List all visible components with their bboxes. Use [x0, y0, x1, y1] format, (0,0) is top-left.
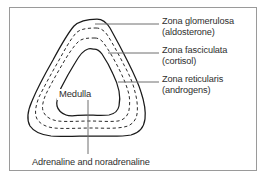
label-zona-glomerulosa-hormone: (aldosterone): [162, 27, 234, 38]
contour-zona-glomerulosa: [28, 19, 145, 136]
label-zona-glomerulosa-name: Zona glomerulosa: [162, 16, 234, 26]
label-caption-adrenaline: Adrenaline and noradrenaline: [32, 157, 150, 168]
label-zona-fasciculata-hormone: (cortisol): [162, 56, 227, 67]
label-medulla: Medulla: [57, 89, 93, 100]
adrenal-gland-diagram: Zona glomerulosa (aldosterone) Zona fasc…: [0, 0, 266, 180]
label-zona-reticularis-name: Zona reticularis: [162, 74, 223, 84]
label-zona-reticularis-hormone: (androgens): [162, 85, 223, 96]
label-zona-reticularis: Zona reticularis (androgens): [162, 74, 223, 95]
label-zona-fasciculata-name: Zona fasciculata: [162, 45, 227, 55]
label-zona-glomerulosa: Zona glomerulosa (aldosterone): [162, 16, 234, 37]
contour-zona-fasciculata: [36, 28, 138, 128]
label-zona-fasciculata: Zona fasciculata (cortisol): [162, 45, 227, 66]
